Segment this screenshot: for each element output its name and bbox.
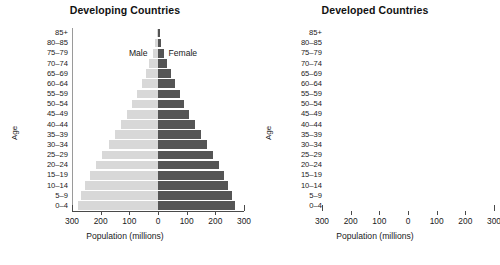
x-axis-tick-label: 0	[393, 216, 423, 226]
x-axis-tick	[465, 211, 466, 215]
pyramid-bar-female	[158, 120, 195, 129]
pyramid-bar-female	[158, 59, 167, 68]
y-axis-tick-label: 75–79	[301, 48, 322, 58]
y-axis-label-developed: Age	[264, 126, 273, 140]
pyramid-bar-male	[78, 201, 158, 210]
x-axis-label-developing: Population (millions)	[0, 231, 250, 241]
pyramid-row	[72, 120, 244, 130]
y-axis-tick-label: 50–54	[47, 99, 68, 109]
pyramid-bar-male	[96, 161, 158, 170]
pyramid-row	[72, 99, 244, 109]
pyramid-bar-female	[158, 110, 189, 119]
x-axis-tick	[408, 211, 409, 215]
y-axis-tick-label: 0–4	[55, 201, 68, 211]
y-axis-tick-label: 40–44	[301, 120, 322, 130]
y-axis-tick-label: 40–44	[47, 120, 68, 130]
pyramid-row	[72, 38, 244, 48]
x-axis-tick-label: 100	[114, 216, 144, 226]
pyramid-row	[72, 201, 244, 211]
pyramid-bar-male	[102, 151, 158, 160]
y-axis-label-developing: Age	[10, 126, 19, 140]
x-axis-tick-label: 200	[86, 216, 116, 226]
y-axis-tick-label: 30–34	[47, 140, 68, 150]
pyramid-bar-female	[158, 181, 228, 190]
y-axis-tick-label: 15–19	[47, 170, 68, 180]
x-axis-tick	[129, 211, 130, 215]
pyramid-bar-female	[158, 140, 207, 149]
pyramid-bar-male	[90, 171, 158, 180]
x-axis-tick-label: 300	[307, 216, 337, 226]
pyramid-bar-female	[158, 90, 180, 99]
x-axis-tick	[437, 211, 438, 215]
pyramid-row	[72, 48, 244, 58]
y-axis-tick-label: 20–24	[301, 160, 322, 170]
y-axis-tick-label: 10–14	[301, 181, 322, 191]
pyramid-row	[72, 59, 244, 69]
y-axis-tick-label: 70–74	[47, 59, 68, 69]
x-axis-label-developed: Population (millions)	[250, 231, 500, 241]
y-axis-tick-label: 35–39	[301, 130, 322, 140]
pyramid-bar-female	[158, 201, 235, 210]
pyramid-bar-female	[158, 161, 219, 170]
y-axis-tick-label: 55–59	[47, 89, 68, 99]
x-axis-tick	[187, 211, 188, 215]
y-axis-tick-label: 0–4	[309, 201, 322, 211]
x-axis-tick	[351, 211, 352, 215]
y-axis-tick-label: 35–39	[47, 130, 68, 140]
y-axis-tick-label: 5–9	[309, 191, 322, 201]
pyramid-row	[72, 28, 244, 38]
pyramid-bar-female	[158, 130, 201, 139]
pyramid-row	[72, 181, 244, 191]
chart-panel-developing: Developing Countries Age 0–45–910–1415–1…	[0, 0, 250, 265]
y-axis-tick-label: 65–69	[47, 69, 68, 79]
pyramid-bar-female	[158, 49, 164, 58]
y-axis-tick-label: 25–29	[301, 150, 322, 160]
y-axis-tick-labels-developed: 0–45–910–1415–1920–2425–2930–3435–3940–4…	[276, 28, 322, 211]
pyramid-bar-male	[127, 110, 158, 119]
y-axis-tick-label: 15–19	[301, 170, 322, 180]
pyramid-bar-male	[85, 181, 158, 190]
pyramid-row	[72, 89, 244, 99]
y-axis-tick-label: 85+	[309, 28, 322, 38]
pyramid-bar-female	[158, 39, 161, 48]
x-axis-tick	[322, 205, 323, 211]
pyramid-bar-male	[137, 90, 158, 99]
pyramid-bar-female	[158, 191, 232, 200]
y-axis-tick-label: 45–49	[301, 109, 322, 119]
plot-area-developing: Male Female	[72, 28, 244, 211]
y-axis-tick-label: 80–85	[47, 38, 68, 48]
pyramid-bar-male	[149, 59, 158, 68]
x-axis-tick-label: 0	[143, 216, 173, 226]
pyramid-row	[72, 160, 244, 170]
x-axis-tick	[158, 211, 159, 215]
x-axis-tick	[72, 205, 73, 211]
pyramid-bar-male	[109, 140, 158, 149]
y-axis-tick-label: 75–79	[47, 48, 68, 58]
y-axis-tick-label: 30–34	[301, 140, 322, 150]
x-axis-tick-label: 300	[479, 216, 500, 226]
y-axis-tick-label: 60–64	[301, 79, 322, 89]
y-axis-tick-label: 55–59	[301, 89, 322, 99]
pyramid-bar-male	[132, 100, 158, 109]
y-axis-tick-label: 10–14	[47, 181, 68, 191]
x-axis-tick-label: 100	[172, 216, 202, 226]
pyramid-row	[72, 69, 244, 79]
pyramid-bar-female	[158, 171, 224, 180]
population-pyramid-figure: Developing Countries Age 0–45–910–1415–1…	[0, 0, 500, 265]
x-axis-tick	[101, 211, 102, 215]
pyramid-bar-male	[146, 69, 158, 78]
y-axis-tick-label: 50–54	[301, 99, 322, 109]
chart-title-developed: Developed Countries	[250, 4, 500, 16]
chart-title-developing: Developing Countries	[0, 4, 250, 16]
pyramid-row	[72, 79, 244, 89]
pyramid-row	[72, 191, 244, 201]
x-axis-tick-label: 200	[200, 216, 230, 226]
y-axis-tick-label: 65–69	[301, 69, 322, 79]
x-axis-tick	[494, 205, 495, 211]
x-axis-tick	[215, 211, 216, 215]
y-axis-tick-label: 80–85	[301, 38, 322, 48]
x-axis-tick-label: 300	[57, 216, 87, 226]
pyramid-row	[72, 150, 244, 160]
y-axis-tick-labels-developing: 0–45–910–1415–1920–2425–2930–3435–3940–4…	[22, 28, 68, 211]
pyramid-bar-male	[121, 120, 158, 129]
